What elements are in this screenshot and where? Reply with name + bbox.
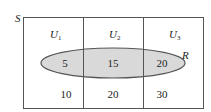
value-u2-outside: 20: [108, 88, 120, 100]
ellipse-label: R: [181, 49, 189, 61]
value-u3-outside: 30: [157, 88, 169, 100]
value-u2-inside: 15: [108, 57, 120, 69]
value-u1-outside: 10: [61, 88, 73, 100]
venn-diagram: S R U1 U2 U3 5 15 20 10 20 30: [0, 0, 211, 112]
value-u3-inside: 20: [157, 57, 169, 69]
universe-label: S: [15, 12, 21, 24]
value-u1-inside: 5: [62, 57, 68, 69]
